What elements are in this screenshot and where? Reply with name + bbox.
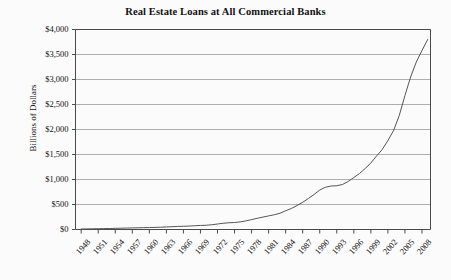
gridlines [76,30,431,205]
plot-area [0,0,451,280]
x-axis-ticks [81,230,422,234]
chart-figure: Real Estate Loans at All Commercial Bank… [0,0,451,280]
y-axis-ticks [72,30,76,230]
data-series-line [81,40,427,230]
series-line [81,40,427,230]
